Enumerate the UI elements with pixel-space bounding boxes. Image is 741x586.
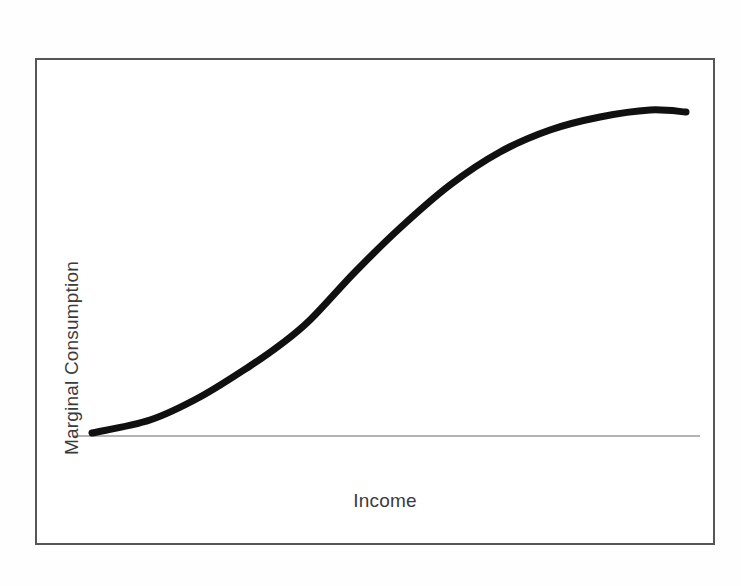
plot-frame	[35, 58, 715, 545]
x-axis-label-text: Income	[353, 490, 417, 511]
y-axis-label: Marginal Consumption	[59, 208, 85, 508]
chart-figure: Marginal Consumption Income	[0, 0, 741, 586]
x-axis-label: Income	[285, 490, 485, 512]
y-axis-label-text: Marginal Consumption	[61, 261, 83, 455]
